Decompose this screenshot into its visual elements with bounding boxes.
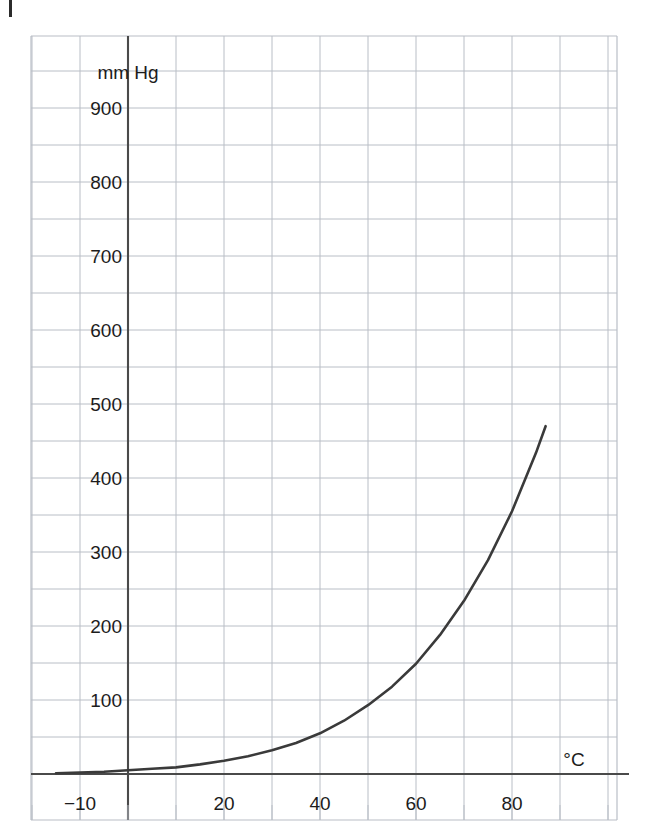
- vapor-pressure-figure: 100200300400500600700800900 −1020406080 …: [0, 0, 649, 840]
- x-axis-tick-labels: −1020406080: [64, 793, 523, 814]
- y-tick-label: 800: [90, 172, 122, 193]
- x-tick-label: −10: [64, 793, 96, 814]
- y-tick-label: 900: [90, 98, 122, 119]
- y-axis-unit-label: mm Hg: [97, 62, 158, 83]
- x-tick-label: 80: [501, 793, 522, 814]
- x-tick-label: 40: [309, 793, 330, 814]
- y-tick-label: 500: [90, 394, 122, 415]
- vapor-pressure-chart: 100200300400500600700800900 −1020406080 …: [0, 0, 649, 840]
- y-axis-tick-labels: 100200300400500600700800900: [90, 98, 122, 711]
- y-tick-label: 200: [90, 616, 122, 637]
- y-tick-label: 300: [90, 542, 122, 563]
- x-axis-unit-label: °C: [563, 749, 584, 770]
- x-tick-label: 60: [405, 793, 426, 814]
- y-tick-label: 100: [90, 690, 122, 711]
- y-tick-label: 400: [90, 468, 122, 489]
- x-tick-label: 20: [213, 793, 234, 814]
- y-tick-label: 600: [90, 320, 122, 341]
- y-tick-label: 700: [90, 246, 122, 267]
